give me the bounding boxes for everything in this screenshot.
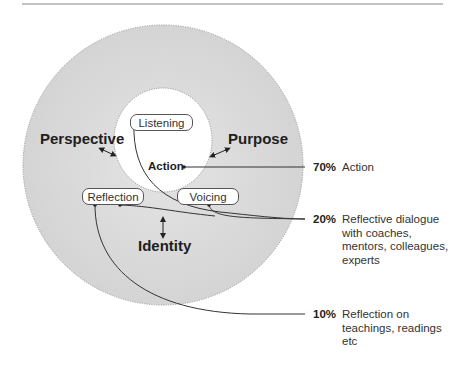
legend-percent: 20% [313, 213, 336, 227]
legend-text: Action [342, 161, 374, 175]
identity-label: Identity [138, 237, 191, 254]
perspective-label: Perspective [40, 130, 124, 147]
voicing-node: Voicing [177, 188, 239, 205]
legend-text: Reflective dialogue with coaches, mentor… [342, 213, 448, 267]
action-label: Action [148, 160, 184, 172]
legend-percent: 10% [313, 308, 336, 322]
legend-text: Reflection on teachings, readings etc [342, 308, 442, 349]
purpose-label: Purpose [228, 130, 288, 147]
inner-core [114, 88, 212, 192]
legend-percent: 70% [313, 161, 336, 175]
listening-node: Listening [130, 114, 193, 131]
reflection-node: Reflection [82, 188, 144, 205]
